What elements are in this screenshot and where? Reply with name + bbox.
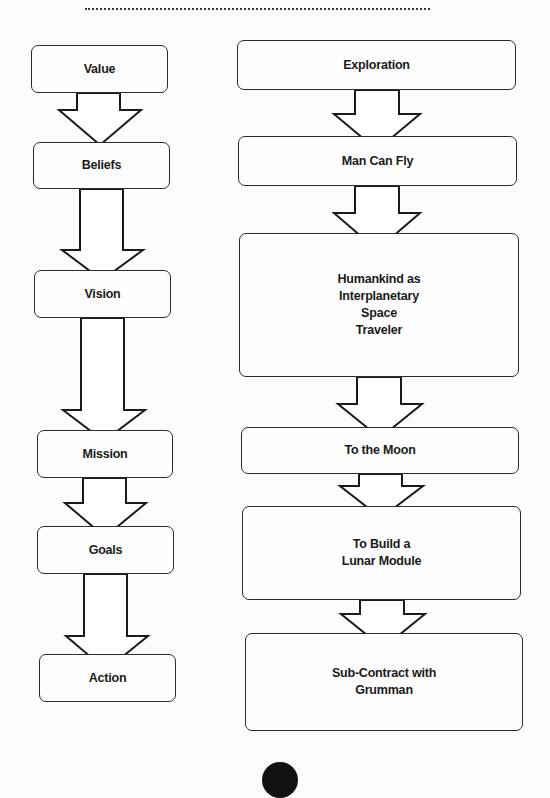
node-exploration: Exploration xyxy=(237,40,516,90)
node-mission: Mission xyxy=(37,430,173,478)
node-humankind-space-traveler: Humankind as Interplanetary Space Travel… xyxy=(239,233,519,377)
node-to-the-moon: To the Moon xyxy=(241,427,519,474)
arrow-down-icon xyxy=(62,189,143,280)
page-marker-circle xyxy=(262,762,298,798)
arrow-down-icon xyxy=(59,93,141,145)
arrow-down-icon xyxy=(63,318,145,441)
node-beliefs: Beliefs xyxy=(33,142,170,189)
node-goals: Goals xyxy=(37,526,174,574)
node-vision: Vision xyxy=(34,270,171,318)
node-grumman-subcontract: Sub-Contract with Grumman xyxy=(245,633,523,731)
node-lunar-module: To Build a Lunar Module xyxy=(242,506,521,600)
node-action: Action xyxy=(39,654,176,702)
node-value: Value xyxy=(31,45,168,93)
node-man-can-fly: Man Can Fly xyxy=(238,136,517,186)
